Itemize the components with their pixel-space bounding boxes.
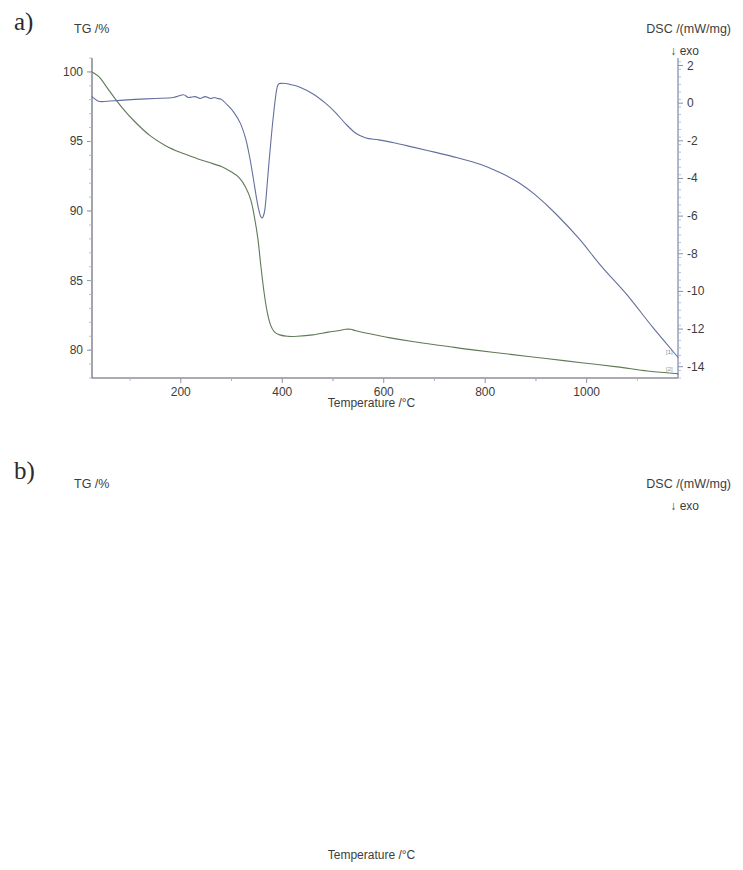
svg-text:-4: -4	[687, 171, 698, 185]
panel-b-plot: 1002003004005006007008009006570758085909…	[0, 435, 743, 870]
svg-text:-8: -8	[687, 247, 698, 261]
svg-text:-6: -6	[687, 209, 698, 223]
curve-marker-dsc-a: [1]	[666, 349, 673, 355]
panel-b: b) TG /% DSC /(mW/mg) ↓ exo Temperature …	[0, 435, 743, 870]
panel-a-plot: 20040060080010008085909510020-2-4-6-8-10…	[0, 0, 743, 435]
svg-text:80: 80	[70, 343, 84, 357]
curve-tg-a	[92, 72, 678, 374]
svg-text:-2: -2	[687, 134, 698, 148]
svg-text:90: 90	[70, 204, 84, 218]
svg-text:200: 200	[171, 385, 191, 399]
svg-text:100: 100	[63, 65, 83, 79]
svg-text:85: 85	[70, 274, 84, 288]
svg-text:95: 95	[70, 134, 84, 148]
svg-text:-12: -12	[687, 322, 705, 336]
svg-text:400: 400	[272, 385, 292, 399]
svg-text:-14: -14	[687, 360, 705, 374]
curve-marker-tg-a: [2]	[666, 366, 673, 372]
curve-dsc-a	[92, 83, 678, 357]
panel-a: a) TG /% DSC /(mW/mg) ↓ exo Temperature …	[0, 0, 743, 435]
svg-text:800: 800	[475, 385, 495, 399]
svg-text:600: 600	[374, 385, 394, 399]
svg-text:0: 0	[687, 96, 694, 110]
svg-text:1000: 1000	[573, 385, 600, 399]
svg-text:2: 2	[687, 59, 694, 73]
svg-text:-10: -10	[687, 284, 705, 298]
